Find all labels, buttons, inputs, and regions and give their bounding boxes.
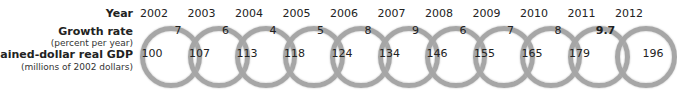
gdp-value: 165 bbox=[522, 47, 543, 60]
growth-rate-value: 9 bbox=[412, 24, 419, 37]
growth-rate-value: 5 bbox=[317, 24, 324, 37]
growth-rate-value: 8 bbox=[555, 24, 562, 37]
growth-rate-value: 6 bbox=[222, 24, 229, 37]
gdp-value: 113 bbox=[237, 47, 258, 60]
year-value: 2010 bbox=[520, 7, 548, 20]
gdp-label: Chained-dollar real GDP bbox=[0, 48, 133, 61]
year-value: 2008 bbox=[425, 7, 453, 20]
growth-rate-value: 6 bbox=[460, 24, 467, 37]
growth-rate-label: Growth rate bbox=[58, 25, 133, 38]
year-value: 2009 bbox=[473, 7, 501, 20]
growth-rate-value: 7 bbox=[175, 24, 182, 37]
gdp-value: 124 bbox=[332, 47, 353, 60]
growth-rate-unit: (percent per year) bbox=[51, 38, 133, 48]
year-value: 2002 bbox=[140, 7, 168, 20]
gdp-value: 107 bbox=[189, 47, 210, 60]
gdp-value: 134 bbox=[379, 47, 400, 60]
gdp-value: 179 bbox=[569, 47, 590, 60]
growth-rate-value: 7 bbox=[507, 24, 514, 37]
gdp-value: 196 bbox=[643, 47, 664, 60]
year-value: 2005 bbox=[283, 7, 311, 20]
year-value: 2012 bbox=[615, 7, 643, 20]
gdp-value: 118 bbox=[284, 47, 305, 60]
growth-rate-value: 9.7 bbox=[596, 24, 616, 37]
year-label: Year bbox=[106, 7, 133, 20]
growth-rate-value: 8 bbox=[365, 24, 372, 37]
year-value: 2003 bbox=[188, 7, 216, 20]
gdp-value: 146 bbox=[427, 47, 448, 60]
gdp-value: 155 bbox=[474, 47, 495, 60]
year-value: 2004 bbox=[235, 7, 263, 20]
year-value: 2006 bbox=[330, 7, 358, 20]
growth-rate-value: 4 bbox=[270, 24, 277, 37]
year-value: 2007 bbox=[378, 7, 406, 20]
year-value: 2011 bbox=[568, 7, 596, 20]
gdp-value: 100 bbox=[142, 47, 163, 60]
gdp-unit: (millions of 2002 dollars) bbox=[21, 62, 133, 72]
